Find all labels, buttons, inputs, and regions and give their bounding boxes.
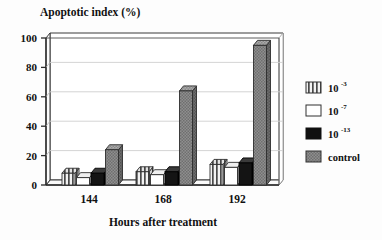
legend-item-1[interactable]: 10 -7 bbox=[306, 103, 347, 117]
y-axis: 0 20 40 60 80 100 bbox=[21, 32, 47, 191]
legend-label-1-sup: -7 bbox=[341, 103, 347, 111]
x-axis: 144 168 192 Hours after treatment bbox=[80, 193, 246, 228]
legend-swatch-control bbox=[306, 151, 321, 162]
x-tick-168: 168 bbox=[154, 193, 172, 205]
y-tick-20: 20 bbox=[26, 150, 38, 162]
x-tick-144: 144 bbox=[80, 193, 98, 205]
chart-title: Apoptotic index (%) bbox=[40, 6, 140, 19]
legend-label-3-base: control bbox=[328, 152, 360, 163]
legend-label-0-base: 10 bbox=[328, 83, 339, 94]
legend-item-3[interactable]: control bbox=[306, 151, 360, 163]
y-tick-0: 0 bbox=[32, 179, 38, 191]
legend-swatch-black bbox=[306, 128, 321, 139]
legend-label-1-base: 10 bbox=[328, 106, 339, 117]
y-tick-40: 40 bbox=[26, 120, 38, 132]
bar-144-control bbox=[106, 145, 123, 185]
bar-192-control bbox=[254, 40, 271, 185]
legend: 10 -3 10 -7 10 -13 control bbox=[306, 80, 360, 163]
y-tick-60: 60 bbox=[26, 91, 38, 103]
legend-label-2-base: 10 bbox=[328, 129, 339, 140]
legend-item-2[interactable]: 10 -13 bbox=[306, 126, 351, 140]
legend-label-2-sup: -13 bbox=[341, 126, 351, 134]
legend-swatch-white bbox=[306, 105, 321, 116]
legend-label-0-sup: -3 bbox=[341, 80, 347, 88]
legend-swatch-stripes bbox=[306, 82, 321, 93]
bar-168-control bbox=[180, 86, 197, 185]
chart-container: Apoptotic index (%) bbox=[0, 0, 382, 240]
x-axis-title: Hours after treatment bbox=[109, 216, 217, 228]
legend-item-0[interactable]: 10 -3 bbox=[306, 80, 347, 94]
x-tick-192: 192 bbox=[228, 193, 246, 205]
bar-chart-svg: Apoptotic index (%) bbox=[0, 0, 382, 240]
y-tick-100: 100 bbox=[21, 32, 38, 44]
y-tick-80: 80 bbox=[26, 61, 38, 73]
